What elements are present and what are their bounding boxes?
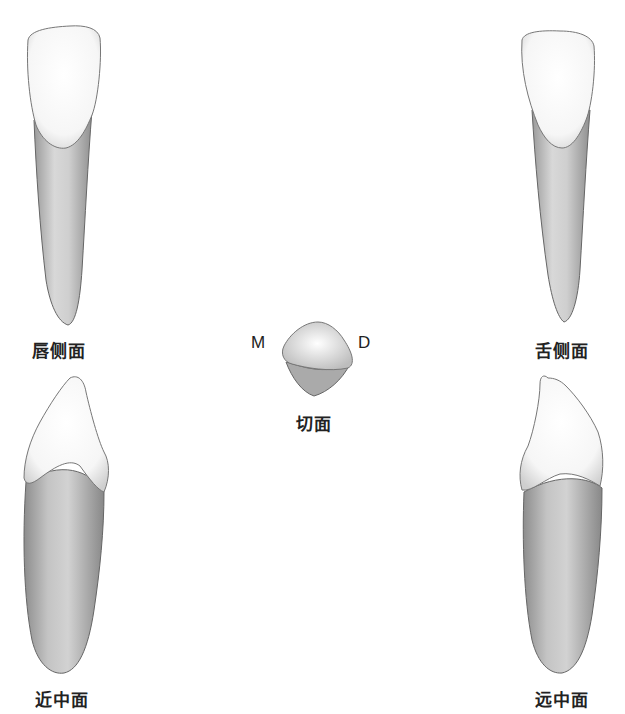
distal-root bbox=[523, 479, 602, 673]
distal-view-label: 远中面 bbox=[535, 686, 589, 711]
incisal-crown bbox=[282, 322, 352, 370]
mesial-view-label: 近中面 bbox=[35, 686, 89, 711]
mesial-view-tooth bbox=[24, 377, 109, 673]
labial-view-label: 唇侧面 bbox=[32, 337, 86, 362]
distal-view-tooth bbox=[520, 376, 603, 673]
lingual-view-tooth bbox=[522, 31, 595, 322]
mesial-root bbox=[24, 470, 104, 674]
incisal-view-tooth bbox=[282, 322, 352, 396]
distal-crown bbox=[520, 376, 603, 490]
distal-marker: D bbox=[358, 333, 370, 353]
labial-view-tooth bbox=[27, 26, 100, 325]
lingual-view-label: 舌侧面 bbox=[535, 337, 589, 362]
tooth-views-illustration bbox=[0, 0, 625, 714]
incisal-view-label: 切面 bbox=[296, 410, 332, 435]
mesial-marker: M bbox=[251, 333, 265, 353]
